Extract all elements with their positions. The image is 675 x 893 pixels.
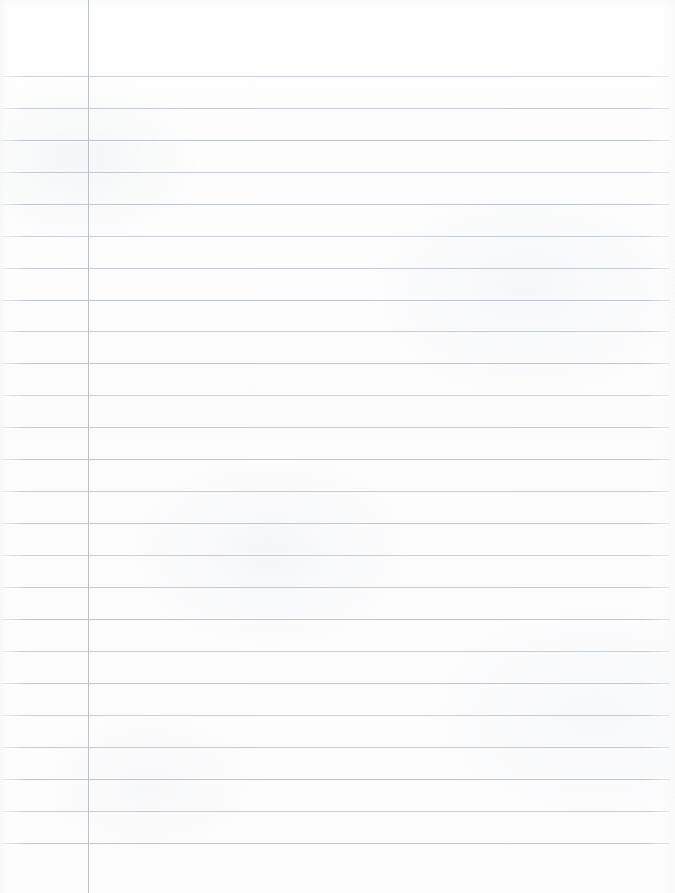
- writing-area[interactable]: [89, 0, 675, 893]
- lined-paper-page: [0, 0, 675, 893]
- paper-left-edge-shading: [0, 0, 10, 893]
